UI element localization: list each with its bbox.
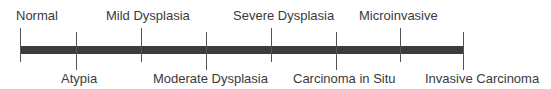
label-atypia: Atypia [61, 71, 97, 86]
timeline-bar [20, 46, 464, 54]
tick-moderate-dysplasia [206, 32, 207, 70]
tick-microinvasive [400, 28, 401, 62]
tick-invasive-carcinoma [463, 32, 464, 70]
tick-normal [20, 28, 21, 62]
label-carcinoma-in-situ: Carcinoma in Situ [293, 71, 396, 86]
label-microinvasive: Microinvasive [359, 8, 438, 23]
tick-severe-dysplasia [271, 28, 272, 62]
tick-atypia [76, 32, 77, 70]
label-mild-dysplasia: Mild Dysplasia [106, 8, 190, 23]
progression-timeline: Normal Atypia Mild Dysplasia Moderate Dy… [0, 0, 551, 89]
label-severe-dysplasia: Severe Dysplasia [233, 8, 334, 23]
tick-carcinoma-in-situ [336, 32, 337, 70]
label-invasive-carcinoma: Invasive Carcinoma [425, 71, 539, 86]
tick-mild-dysplasia [141, 28, 142, 62]
label-normal: Normal [16, 8, 58, 23]
label-moderate-dysplasia: Moderate Dysplasia [153, 71, 268, 86]
